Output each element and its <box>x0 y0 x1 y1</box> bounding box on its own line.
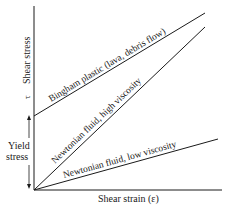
yield-stress-label-line2: stress <box>6 151 28 162</box>
arrow-down-icon <box>27 184 31 189</box>
newtonian-low-viscosity-label: Newtonian fluid, low viscosity <box>62 139 178 180</box>
rheology-diagram: Shear stress τ Yield stress Bingham plas… <box>0 0 227 210</box>
yield-stress-label-line1: Yield <box>8 140 30 151</box>
arrow-up-icon <box>27 115 31 120</box>
y-axis-label: Shear stress <box>21 36 32 84</box>
x-axis-label: Shear strain (ε) <box>98 193 159 205</box>
bingham-plastic-label: Bingham plastic (lava, debris flow) <box>47 26 168 105</box>
tau-symbol: τ <box>22 95 32 99</box>
